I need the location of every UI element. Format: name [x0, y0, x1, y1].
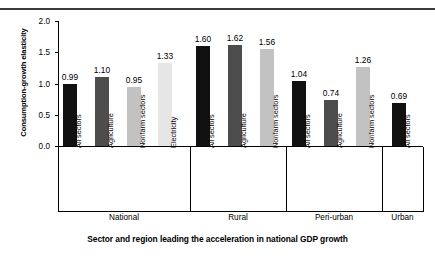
x-category-label: Nonfarm sectors	[271, 88, 280, 148]
x-axis-title: Sector and region leading the accelerati…	[0, 234, 435, 244]
group-label: Rural	[190, 213, 286, 222]
group-band-underline	[190, 211, 286, 212]
group-label: Urban	[382, 213, 423, 222]
y-tick-label: 1.0	[39, 79, 50, 88]
bar-value-label: 1.62	[227, 33, 243, 43]
group-band-underline	[286, 211, 382, 212]
x-category-label: Nonfarm sectors	[138, 88, 147, 148]
group-separator	[58, 147, 59, 212]
y-tick-label: 1.5	[39, 48, 50, 57]
group-separator	[423, 147, 424, 212]
x-category-label: All sectors	[303, 88, 312, 148]
bar-value-label: 1.33	[157, 51, 173, 61]
x-category-label: Nonfarm sectors	[367, 88, 376, 148]
group-separator	[286, 147, 287, 212]
bar-value-label: 1.26	[355, 55, 371, 65]
group-separator	[382, 147, 383, 212]
bar-value-label: 1.04	[291, 69, 307, 79]
group-band-underline	[58, 211, 190, 212]
y-axis-tick-labels: 0.00.51.01.52.0	[30, 0, 50, 262]
y-tick-label: 0.0	[39, 142, 50, 151]
bar-value-label: 0.99	[62, 72, 78, 82]
y-axis-title: Consumption-growth elasticity	[19, 13, 28, 153]
x-category-label: Agriculture	[239, 88, 248, 148]
bar-value-label: 1.10	[94, 65, 110, 75]
plot-area: Consumption-growth elasticity 0.00.51.01…	[0, 0, 435, 262]
bar-value-label: 1.60	[195, 34, 211, 44]
bar-value-label: 1.56	[259, 37, 275, 47]
group-separator	[190, 147, 191, 212]
x-category-label: Agriculture	[106, 88, 115, 148]
bar-value-label: 0.95	[126, 75, 142, 85]
y-tick-label: 0.5	[39, 110, 50, 119]
group-band-underline	[382, 211, 423, 212]
x-category-label: Electricity	[169, 88, 178, 148]
group-label: Peri-urban	[286, 213, 382, 222]
x-category-label: Agriculture	[335, 88, 344, 148]
y-tick-label: 2.0	[39, 17, 50, 26]
y-axis-line	[58, 21, 59, 147]
x-category-label: All sectors	[207, 88, 216, 148]
group-label: National	[58, 213, 190, 222]
x-category-label: All sectors	[403, 88, 412, 148]
chart-root: Consumption-growth elasticity 0.00.51.01…	[0, 0, 435, 262]
x-category-label: All sectors	[74, 88, 83, 148]
